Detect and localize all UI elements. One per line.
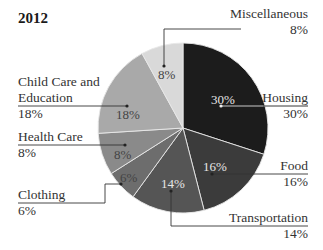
inner-pct-housing: 30%: [211, 92, 235, 107]
label-housing-pct: 30%: [250, 106, 308, 122]
label-housing: Housing 30%: [250, 90, 308, 122]
label-clothing-pct: 6%: [18, 203, 65, 219]
inner-pct-health: 8%: [114, 147, 132, 162]
label-misc-name: Miscellaneous: [230, 6, 308, 21]
label-childcare-name-line1: Child Care and: [18, 74, 100, 90]
label-clothing: Clothing 6%: [18, 187, 65, 219]
label-food-pct: 16%: [250, 174, 308, 190]
label-clothing-name: Clothing: [18, 187, 65, 202]
inner-pct-clothing: 6%: [120, 170, 138, 185]
inner-pct-misc: 8%: [158, 67, 176, 82]
label-food: Food 16%: [250, 158, 308, 190]
label-misc: Miscellaneous 8%: [230, 6, 308, 38]
label-transportation-pct: 14%: [210, 226, 308, 242]
label-housing-name: Housing: [262, 90, 308, 105]
inner-pct-childcare: 18%: [116, 107, 140, 122]
label-misc-pct: 8%: [230, 22, 308, 38]
inner-pct-food: 16%: [203, 159, 227, 174]
inner-pct-transportation: 14%: [161, 176, 185, 191]
label-transportation: Transportation 14%: [210, 210, 308, 242]
label-childcare-name-line2: Education: [18, 90, 100, 106]
label-health-name: Health Care: [18, 129, 83, 144]
label-childcare-pct: 18%: [18, 106, 100, 122]
label-childcare: Child Care and Education 18%: [18, 74, 100, 122]
label-transportation-name: Transportation: [229, 210, 308, 225]
label-health-pct: 8%: [18, 145, 83, 161]
label-health: Health Care 8%: [18, 129, 83, 161]
label-food-name: Food: [280, 158, 308, 173]
